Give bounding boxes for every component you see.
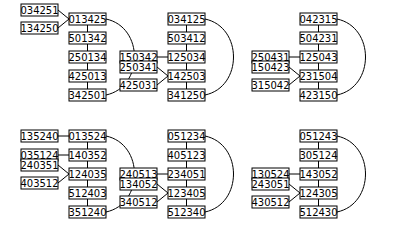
attachment-node: 240351	[20, 159, 58, 171]
panel-p4: 1352400351242403514035120135241403521240…	[20, 130, 134, 218]
node-label: 231504	[299, 71, 337, 82]
node-label: 125043	[299, 52, 337, 63]
attachment-node: 403512	[20, 177, 58, 189]
node-label: 124035	[68, 169, 106, 180]
attachment-edge	[58, 10, 69, 19]
node-label: 512430	[299, 207, 337, 218]
spine-node: 425013	[68, 70, 106, 82]
spine-node: 123405	[167, 187, 205, 199]
node-label: 034251	[20, 5, 58, 16]
spine-node: 342501	[68, 89, 106, 101]
node-label: 430512	[251, 197, 289, 208]
spine-node: 234051	[167, 168, 205, 180]
spine-node: 231504	[299, 70, 337, 82]
attachment-node: 250341	[119, 61, 157, 73]
spine-node: 512340	[167, 206, 205, 218]
node-label: 013425	[68, 14, 106, 25]
panel-p3: 2504311504233150420423155042311250432315…	[251, 13, 365, 101]
attachment-edge	[58, 165, 69, 174]
spine-node: 504231	[299, 32, 337, 44]
node-label: 123405	[167, 188, 205, 199]
node-label: 234051	[167, 169, 205, 180]
spine-node: 124305	[299, 187, 337, 199]
node-label: 342501	[68, 90, 106, 101]
spine-node: 125043	[299, 51, 337, 63]
spine-node: 042315	[299, 13, 337, 25]
node-label: 135240	[20, 131, 58, 142]
node-label: 503412	[167, 33, 205, 44]
attachment-edge	[289, 184, 300, 193]
permutation-graphs-diagram: 0342511342500134255013422501344250133425…	[0, 0, 402, 237]
attachment-node: 134052	[119, 178, 157, 190]
spine-node: 140352	[68, 149, 106, 161]
node-label: 034125	[167, 14, 205, 25]
loop-edge	[337, 19, 366, 95]
node-label: 501342	[68, 33, 106, 44]
node-label: 243051	[251, 179, 289, 190]
node-label: 250341	[119, 62, 157, 73]
spine-node: 013524	[68, 130, 106, 142]
spine-node: 512403	[68, 187, 106, 199]
loop-edge	[337, 136, 366, 212]
node-label: 425013	[68, 71, 106, 82]
attachment-node: 134250	[20, 22, 58, 34]
node-label: 051234	[167, 131, 205, 142]
node-label: 134250	[20, 23, 58, 34]
attachment-node: 150423	[251, 61, 289, 73]
attachment-node: 430512	[251, 196, 289, 208]
spine-node: 250134	[68, 51, 106, 63]
node-label: 250134	[68, 52, 106, 63]
attachment-edge	[289, 76, 300, 85]
node-label: 240351	[20, 160, 58, 171]
attachment-edge	[157, 76, 168, 85]
attachment-node: 315042	[251, 79, 289, 91]
node-label: 405123	[167, 150, 205, 161]
spine-node: 305124	[299, 149, 337, 161]
spine-node: 125034	[167, 51, 205, 63]
node-label: 013524	[68, 131, 106, 142]
spine-node: 143052	[299, 168, 337, 180]
loop-edge	[205, 19, 234, 95]
node-label: 340512	[119, 197, 157, 208]
node-label: 512403	[68, 188, 106, 199]
node-label: 423150	[299, 90, 337, 101]
node-label: 315042	[251, 80, 289, 91]
node-label: 140352	[68, 150, 106, 161]
node-label: 351240	[68, 207, 106, 218]
node-label: 425031	[119, 80, 157, 91]
loop-edge	[205, 136, 234, 212]
spine-node: 034125	[167, 13, 205, 25]
panel-p1: 0342511342500134255013422501344250133425…	[20, 4, 134, 101]
node-label: 125034	[167, 52, 205, 63]
attachment-edge	[58, 174, 69, 183]
node-label: 512340	[167, 207, 205, 218]
spine-node: 013425	[68, 13, 106, 25]
node-label: 143052	[299, 169, 337, 180]
node-label: 150423	[251, 62, 289, 73]
spine-node: 142503	[167, 70, 205, 82]
attachment-node: 243051	[251, 178, 289, 190]
attachment-node: 340512	[119, 196, 157, 208]
spine-node: 503412	[167, 32, 205, 44]
panel-p6: 1305242430514305120512433051241430521243…	[251, 130, 365, 218]
attachment-edge	[157, 184, 168, 193]
spine-node: 501342	[68, 32, 106, 44]
panel-p2: 1503422503414250310341255034121250341425…	[119, 13, 233, 101]
attachment-edge	[289, 193, 300, 202]
spine-node: 124035	[68, 168, 106, 180]
node-label: 341250	[167, 90, 205, 101]
spine-node: 351240	[68, 206, 106, 218]
panel-p5: 2405131340523405120512344051232340511234…	[119, 130, 233, 218]
node-label: 305124	[299, 150, 337, 161]
spine-node: 341250	[167, 89, 205, 101]
attachment-node: 135240	[20, 130, 58, 142]
spine-node: 405123	[167, 149, 205, 161]
attachment-edge	[157, 193, 168, 202]
attachment-edge	[58, 19, 69, 28]
attachment-node: 034251	[20, 4, 58, 16]
node-label: 403512	[20, 178, 58, 189]
attachment-node: 425031	[119, 79, 157, 91]
attachment-edge	[157, 67, 168, 76]
node-label: 134052	[119, 179, 157, 190]
spine-node: 423150	[299, 89, 337, 101]
